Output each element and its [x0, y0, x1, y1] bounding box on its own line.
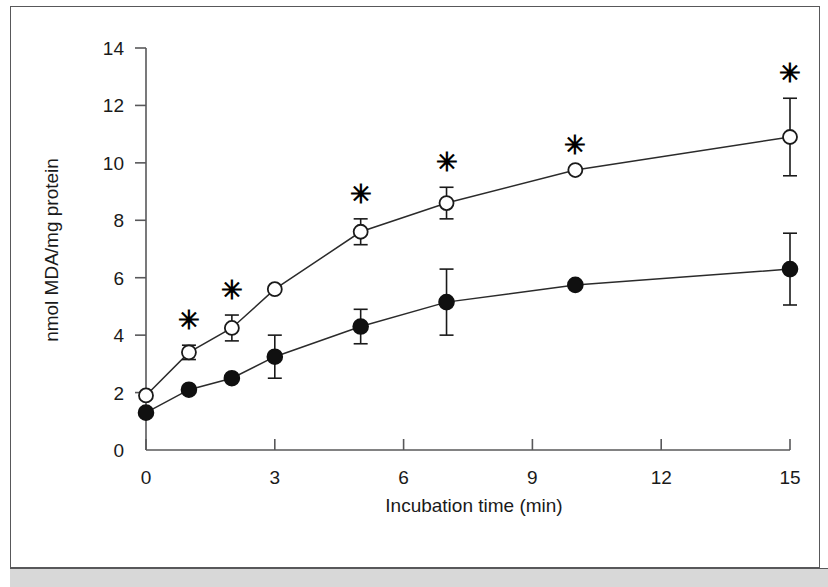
significance-asterisk: ✳	[221, 275, 243, 305]
x-tick-label: 6	[398, 467, 409, 488]
y-tick-label: 8	[113, 210, 124, 231]
x-axis-tick-labels: 03691215	[141, 467, 801, 488]
x-axis-title: Incubation time (min)	[385, 495, 562, 516]
y-tick-label: 10	[103, 153, 124, 174]
data-point-filled-circle[interactable]	[568, 277, 583, 292]
data-point-open-circle[interactable]	[225, 321, 239, 335]
data-point-filled-circle[interactable]	[439, 295, 454, 310]
y-tick-label: 6	[113, 268, 124, 289]
data-point-filled-circle[interactable]	[783, 262, 798, 277]
data-point-open-circle[interactable]	[182, 345, 196, 359]
y-tick-label: 14	[103, 38, 125, 59]
x-tick-label: 3	[270, 467, 281, 488]
y-axis-tick-labels: 02468101214	[103, 38, 125, 461]
significance-asterisk: ✳	[436, 147, 458, 177]
data-point-open-circle[interactable]	[440, 196, 454, 210]
data-point-open-circle[interactable]	[568, 163, 582, 177]
significance-asterisk: ✳	[564, 130, 586, 160]
y-axis-tick-marks	[135, 48, 146, 393]
x-tick-label: 9	[527, 467, 538, 488]
data-point-open-circle[interactable]	[783, 130, 797, 144]
data-point-filled-circle[interactable]	[139, 405, 154, 420]
y-tick-label: 0	[113, 440, 124, 461]
data-point-filled-circle[interactable]	[224, 371, 239, 386]
data-point-open-circle[interactable]	[268, 282, 282, 296]
caption-band	[10, 568, 828, 587]
significance-asterisk: ✳	[178, 305, 200, 335]
significance-asterisk: ✳	[350, 179, 372, 209]
x-tick-label: 0	[141, 467, 152, 488]
series-polyline	[146, 137, 790, 395]
y-tick-label: 12	[103, 95, 124, 116]
y-tick-label: 2	[113, 383, 124, 404]
data-series-layer	[139, 98, 798, 420]
y-axis-title: nmol MDA/mg protein	[41, 158, 62, 342]
data-point-filled-circle[interactable]	[353, 319, 368, 334]
x-tick-label: 12	[651, 467, 672, 488]
data-point-filled-circle[interactable]	[181, 382, 196, 397]
chart-canvas: 02468101214 03691215 ✳✳✳✳✳✳ Incubation t…	[0, 0, 828, 587]
data-point-filled-circle[interactable]	[267, 349, 282, 364]
data-point-open-circle[interactable]	[139, 388, 153, 402]
x-axis-tick-marks	[146, 439, 790, 450]
x-tick-label: 15	[779, 467, 800, 488]
significance-asterisk: ✳	[779, 58, 801, 88]
data-point-open-circle[interactable]	[354, 225, 368, 239]
series-open-circle-series	[139, 98, 797, 402]
y-tick-label: 4	[113, 325, 124, 346]
